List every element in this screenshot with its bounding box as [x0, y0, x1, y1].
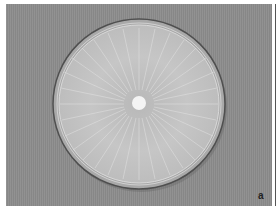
- inoculum-plug: [132, 96, 146, 110]
- petri-dish-illustration: [0, 0, 278, 212]
- panel-label: a: [258, 190, 264, 201]
